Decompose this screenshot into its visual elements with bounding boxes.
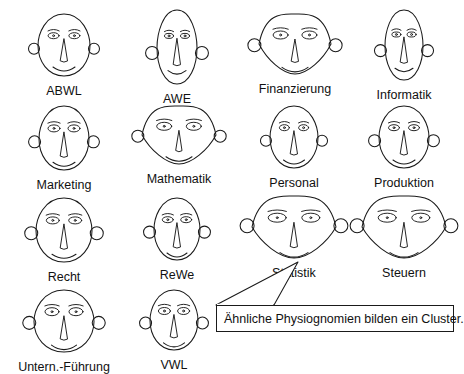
face-label: Untern.-Führung (8, 360, 120, 374)
chernoff-face-statistik: Statistik (238, 188, 350, 280)
chernoff-face-vwl: VWL (124, 282, 224, 372)
chernoff-face-finanzierung: Finanzierung (240, 6, 350, 96)
face-drawing (127, 2, 227, 92)
chernoff-face-abwl: ABWL (14, 6, 114, 98)
face-drawing (124, 98, 234, 172)
face-drawing (127, 190, 227, 268)
callout-text: Ähnliche Physiognomien bilden ein Cluste… (224, 312, 464, 326)
face-drawing (8, 282, 120, 360)
chernoff-face-personal: Personal (246, 98, 342, 190)
chernoff-face-informatik: Informatik (356, 2, 452, 102)
chernoff-face-rewe: ReWe (127, 190, 227, 282)
face-drawing (356, 98, 452, 176)
face-label: Steuern (348, 266, 460, 280)
chernoff-face-untern-f-hrung: Untern.-Führung (8, 282, 120, 374)
face-drawing (348, 188, 460, 266)
chernoff-face-recht: Recht (14, 190, 114, 284)
face-drawing (14, 98, 114, 178)
face-drawing (356, 2, 452, 88)
chernoff-face-produktion: Produktion (356, 98, 452, 190)
face-label: ReWe (127, 268, 227, 282)
chernoff-face-marketing: Marketing (14, 98, 114, 192)
face-drawing (14, 6, 114, 84)
chernoff-face-mathematik: Mathematik (124, 98, 234, 186)
face-drawing (238, 188, 350, 266)
face-drawing (14, 190, 114, 270)
chernoff-face-awe: AWE (127, 2, 227, 106)
face-drawing (246, 98, 342, 176)
face-drawing (124, 282, 224, 358)
face-label: Statistik (238, 266, 350, 280)
face-drawing (240, 6, 350, 82)
chernoff-face-steuern: Steuern (348, 188, 460, 280)
face-label: Finanzierung (240, 82, 350, 96)
face-label: ABWL (14, 84, 114, 98)
face-label: VWL (124, 358, 224, 372)
face-label: Mathematik (124, 172, 234, 186)
callout-box: Ähnliche Physiognomien bilden ein Cluste… (216, 305, 454, 332)
